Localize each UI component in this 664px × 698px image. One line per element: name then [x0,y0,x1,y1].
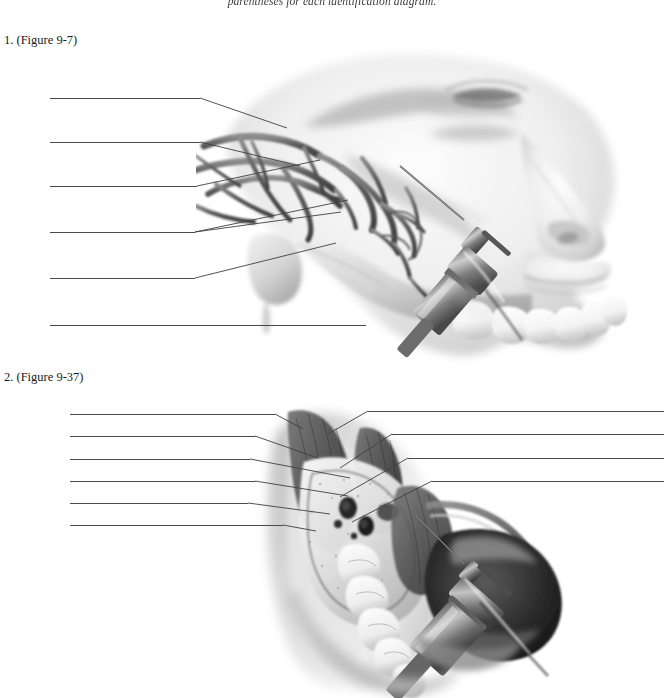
pointer-f1-5 [195,212,341,232]
figure-2-caption: 2. (Figure 9-37) [4,370,84,385]
figure-1-answer-lines [50,98,366,325]
pointer-f1-1 [200,98,287,128]
pointer-f2-r3 [340,458,408,497]
figure-2-right-pointer-lines [328,411,432,522]
leader-line-layer [0,0,664,698]
figure-1-caption: 1. (Figure 9-7) [4,33,77,48]
pointer-f2-l4 [255,481,348,496]
worksheet-page: parentheses for each identification diag… [0,0,664,698]
pointer-f1-4 [195,200,348,232]
pointer-f2-r4 [352,481,432,522]
pointer-f2-l3 [250,459,350,478]
figure-1-pointer-lines [195,98,348,278]
figure-2-right-answer-lines [368,411,664,481]
figure-2-left-pointer-lines [248,414,350,531]
pointer-f2-r1 [328,411,368,434]
figure-1-illustration [196,38,664,383]
pointer-f2-l5 [248,503,330,514]
pointer-f2-r2 [340,434,392,468]
pointer-f1-3 [197,160,320,186]
pointer-f2-l1 [275,414,303,429]
pointer-f2-l6 [283,525,316,531]
pointer-f2-l2 [255,436,318,458]
figure-2-illustration [248,388,664,698]
pointer-f1-6 [195,243,336,278]
pointer-f1-2 [200,142,300,166]
running-header: parentheses for each identification diag… [0,0,664,7]
figure-2-left-answer-lines [70,414,283,525]
